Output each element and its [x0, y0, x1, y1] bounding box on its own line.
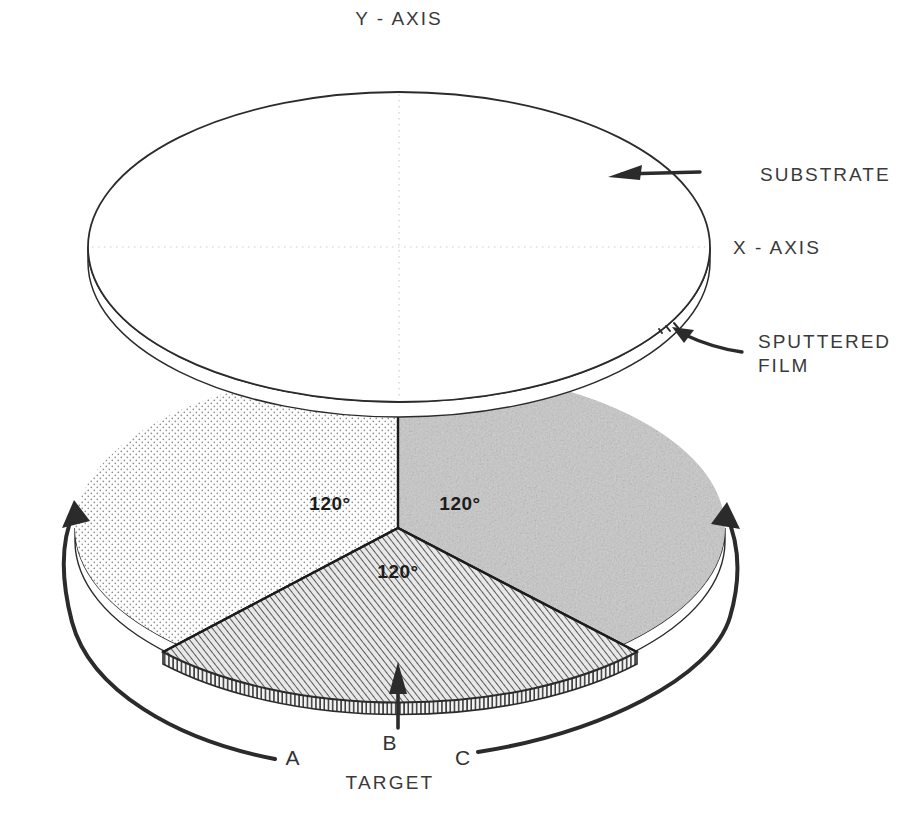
y-axis-label: Y - AXIS	[355, 8, 442, 29]
angle-label-front: 120°	[377, 561, 418, 582]
substrate-label: SUBSTRATE	[760, 164, 891, 185]
angle-label-right: 120°	[439, 493, 480, 514]
marker-label-c: C	[455, 746, 471, 769]
marker-label-b: B	[382, 731, 397, 754]
substrate-disc	[88, 92, 710, 417]
target-label: TARGET	[346, 772, 435, 793]
sputtered-film-label-line2: FILM	[758, 355, 809, 376]
marker-label-a: A	[285, 746, 300, 769]
target-disc: 120° 120° 120°	[41, 367, 759, 715]
sputtering-diagram: 120° 120° 120°	[0, 0, 907, 831]
sputtered-film-label-line1: SPUTTERED	[758, 331, 891, 352]
figure-root: 120° 120° 120°	[0, 0, 907, 831]
x-axis-label: X - AXIS	[733, 237, 821, 258]
angle-label-left: 120°	[309, 493, 350, 514]
